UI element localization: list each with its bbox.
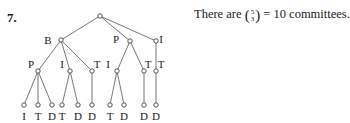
tree-node-label: B [44,34,51,46]
tree-leaf-node [122,103,126,107]
tree-edge [70,71,78,105]
tree-node [36,69,40,73]
tree-edge [38,71,52,105]
tree-node [115,69,119,73]
tree-leaf-node [108,103,112,107]
tree-node-label: P [113,33,119,45]
tree-leaf-label: I [22,110,26,122]
tree-node-label: T [94,58,101,70]
tree-node [68,69,72,73]
tree-node-label: I [159,33,163,45]
tree-edge [24,71,38,105]
tree-node-label: I [60,58,64,70]
tree-root-node [98,14,102,18]
tree-node [154,39,158,43]
tree-node-label: P [28,58,34,70]
tree-leaf-node [154,103,158,107]
tree-leaf-node [50,103,54,107]
tree-leaf-label: T [35,110,42,122]
tree-edge [62,71,70,105]
tree-leaf-label: T [107,110,114,122]
tree-node [59,38,63,42]
tree-edge [61,16,100,40]
tree-leaf-label: D [88,110,96,122]
tree-edge [130,41,144,71]
tree-node-label: T [158,58,165,70]
tree-edge [100,16,156,41]
tree-leaf-node [142,103,146,107]
tree-leaf-label: D [48,110,56,122]
tree-leaf-node [22,103,26,107]
tree-leaf-node [60,103,64,107]
tree-node-label: I [106,58,110,70]
tree-leaf-label: D [152,110,160,122]
tree-leaf-label: D [120,110,128,122]
tree-edge [117,41,130,71]
tree-leaf-label: D [74,110,82,122]
tree-leaf-label: T [59,110,66,122]
tree-leaf-node [36,103,40,107]
tree-node [128,39,132,43]
tree-leaf-node [76,103,80,107]
tree-leaf-node [90,103,94,107]
tree-edge [110,71,117,105]
tree-edge [117,71,124,105]
tree-leaf-label: D [140,110,148,122]
tree-node-label: T [145,58,152,70]
committee-tree-diagram: BPIPITITTITDTDDTDDD [0,0,350,123]
